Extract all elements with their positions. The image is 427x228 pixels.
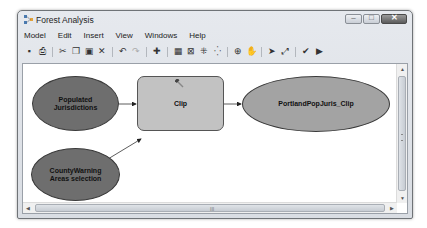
toolbar-separator — [295, 47, 296, 57]
menu-help[interactable]: Help — [189, 31, 205, 42]
add-data-icon[interactable]: ✚ — [152, 46, 162, 57]
maximize-icon: □ — [364, 13, 379, 22]
tool-node-clip[interactable]: Clip — [137, 76, 224, 131]
zoom-in-icon[interactable]: ⊕ — [233, 46, 243, 57]
validate-icon[interactable]: ✔ — [301, 46, 311, 57]
node-label: PortlandPopJuris_Clip — [278, 100, 353, 108]
window-title: Forest Analysis — [36, 15, 94, 25]
menu-edit[interactable]: Edit — [58, 31, 72, 42]
save-icon[interactable]: ▪ — [24, 46, 34, 57]
output-node-portlandpopjuris-clip[interactable]: PortlandPopJuris_Clip — [242, 76, 390, 132]
model-builder-window: Forest Analysis – □ ✕ Model Edit Insert … — [17, 10, 413, 219]
toolbar-separator — [52, 47, 53, 57]
node-label: Clip — [174, 100, 187, 108]
redo-icon[interactable]: ↷ — [131, 46, 141, 57]
auto-layout-icon[interactable]: ▦ — [173, 46, 183, 57]
maximize-button[interactable]: □ — [363, 14, 380, 24]
toolbar-separator — [146, 47, 147, 57]
toolbar-separator — [261, 47, 262, 57]
paste-icon[interactable]: ▣ — [84, 46, 94, 57]
grip-icon — [401, 134, 403, 141]
menu-insert[interactable]: Insert — [84, 31, 104, 42]
node-label: Jurisdictions — [54, 104, 98, 112]
scroll-up-icon[interactable]: ▲ — [400, 66, 405, 72]
menu-windows[interactable]: Windows — [145, 31, 177, 42]
toolbar-separator — [167, 47, 168, 57]
node-label: Areas selection — [50, 175, 102, 183]
vertical-scroll-thumb[interactable] — [398, 76, 406, 191]
connect-icon[interactable]: ⤢ — [280, 46, 290, 57]
delete-icon[interactable]: ✕ — [97, 46, 107, 57]
run-icon[interactable]: ▶ — [314, 46, 324, 57]
minimize-icon: – — [346, 13, 361, 22]
minimize-button[interactable]: – — [345, 14, 362, 24]
print-icon[interactable]: ⎙ — [37, 46, 47, 57]
select-icon[interactable]: ➤ — [267, 46, 277, 57]
fixed-zoom-out-icon[interactable]: ⁛ — [212, 46, 222, 57]
menu-view[interactable]: View — [116, 31, 133, 42]
horizontal-scroll-thumb[interactable]: III — [35, 204, 385, 212]
cut-icon[interactable]: ✂ — [58, 46, 68, 57]
close-icon: ✕ — [382, 13, 406, 22]
scroll-left-icon[interactable]: ◀ — [26, 205, 30, 211]
close-button[interactable]: ✕ — [381, 14, 407, 24]
toolbar: ▪ ⎙ ✂ ❐ ▣ ✕ ↶ ↷ ✚ ▦ ⊠ ⁜ ⁛ ⊕ ✋ ➤ ⤢ ✔ ▶ — [24, 45, 324, 58]
menu-model[interactable]: Model — [24, 31, 46, 42]
fixed-zoom-in-icon[interactable]: ⁜ — [199, 46, 209, 57]
full-extent-icon[interactable]: ⊠ — [186, 46, 196, 57]
model-builder-icon — [24, 15, 34, 25]
model-canvas[interactable]: Populated Jurisdictions Clip PortlandPop… — [22, 63, 408, 214]
scroll-down-icon[interactable]: ▼ — [400, 195, 405, 201]
title-bar[interactable]: Forest Analysis – □ ✕ — [18, 11, 412, 29]
horizontal-scrollbar[interactable]: ◀ III ▶ — [23, 202, 397, 213]
grip-icon: III — [210, 206, 214, 212]
undo-icon[interactable]: ↶ — [118, 46, 128, 57]
hammer-icon — [175, 79, 185, 89]
toolbar-separator — [112, 47, 113, 57]
copy-icon[interactable]: ❐ — [71, 46, 81, 57]
input-node-populated-jurisdictions[interactable]: Populated Jurisdictions — [32, 76, 119, 131]
menu-bar: Model Edit Insert View Windows Help — [24, 31, 206, 42]
input-node-countywarning-areas-selection[interactable]: CountyWarning Areas selection — [31, 148, 120, 201]
node-label: Populated — [54, 96, 98, 104]
toolbar-separator — [227, 47, 228, 57]
scroll-right-icon[interactable]: ▶ — [390, 205, 394, 211]
pan-icon[interactable]: ✋ — [246, 46, 256, 57]
node-label: CountyWarning — [50, 167, 102, 175]
vertical-scrollbar[interactable]: ▲ ▼ — [396, 64, 407, 203]
